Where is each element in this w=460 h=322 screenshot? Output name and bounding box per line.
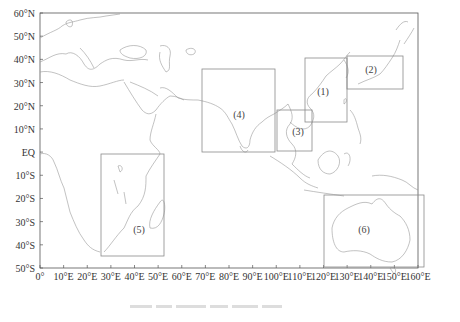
x-tick-label: 0°: [36, 271, 45, 282]
coastlines: [40, 14, 418, 274]
y-tick-label: 40°S: [15, 239, 35, 250]
y-tick-label: 20°S: [15, 193, 35, 204]
y-tick-label: 40°N: [14, 54, 35, 65]
x-tick-label: 110°E: [288, 271, 313, 282]
x-tick-label: 120°E: [311, 271, 336, 282]
x-tick-label: 130°E: [335, 271, 360, 282]
x-tick-label: 100°E: [264, 271, 289, 282]
x-tick-label: 150°E: [382, 271, 407, 282]
x-tick-label: 140°E: [358, 271, 383, 282]
y-tick-label: 50°N: [14, 31, 35, 42]
region-boxes: [101, 56, 424, 267]
x-tick-label: 90°E: [243, 271, 263, 282]
x-tick-label: 10°E: [54, 271, 74, 282]
x-tick-label: 20°E: [77, 271, 97, 282]
region-box-5: [101, 154, 164, 256]
region-label-2: (2): [365, 64, 377, 75]
y-tick-label: EQ: [22, 147, 35, 158]
x-tick-label: 50°E: [148, 271, 168, 282]
region-label-6: (6): [358, 224, 370, 235]
region-label-3: (3): [292, 126, 304, 137]
x-tick-label: 40°E: [124, 271, 144, 282]
y-tick-label: 30°S: [15, 216, 35, 227]
y-tick-label: 50°S: [15, 263, 35, 274]
x-tick-label: 160°E: [405, 271, 430, 282]
figure-caption: [130, 296, 330, 302]
y-tick-label: 10°S: [15, 170, 35, 181]
region-label-4: (4): [233, 109, 245, 120]
x-tick-label: 80°E: [219, 271, 239, 282]
x-tick-label: 70°E: [195, 271, 215, 282]
region-label-5: (5): [133, 224, 145, 235]
y-tick-label: 10°N: [14, 123, 35, 134]
x-tick-label: 60°E: [172, 271, 192, 282]
region-label-1: (1): [317, 86, 329, 97]
y-tick-label: 60°N: [14, 8, 35, 19]
x-tick-label: 30°E: [101, 271, 121, 282]
y-tick-label: 20°N: [14, 100, 35, 111]
y-tick-label: 30°N: [14, 77, 35, 88]
